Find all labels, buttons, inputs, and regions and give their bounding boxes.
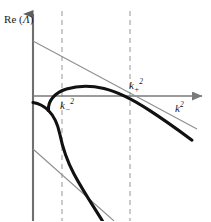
y-axis-symbol: Λ — [23, 13, 30, 25]
asymptote-upper-line — [33, 41, 197, 129]
gridline-group — [62, 11, 130, 221]
k-minus-exponent: 2 — [70, 97, 74, 106]
y-axis-label: Re (Λ) — [4, 14, 34, 25]
figure-container: Re (Λ) k2 k−2 k+2 — [0, 0, 211, 221]
annotation-k-minus: k−2 — [60, 100, 74, 111]
curve-lower-branch — [49, 111, 103, 222]
curve-group — [33, 86, 192, 221]
annotation-k-plus: k+2 — [129, 80, 143, 91]
x-axis-label: k2 — [175, 103, 184, 114]
asymptote-lower-line — [33, 149, 114, 221]
x-axis-exponent: 2 — [180, 100, 184, 109]
curve-left-stub — [33, 103, 49, 111]
k-minus-subscript: − — [65, 105, 70, 114]
k-plus-subscript: + — [134, 85, 139, 94]
k-plus-exponent: 2 — [139, 77, 143, 86]
